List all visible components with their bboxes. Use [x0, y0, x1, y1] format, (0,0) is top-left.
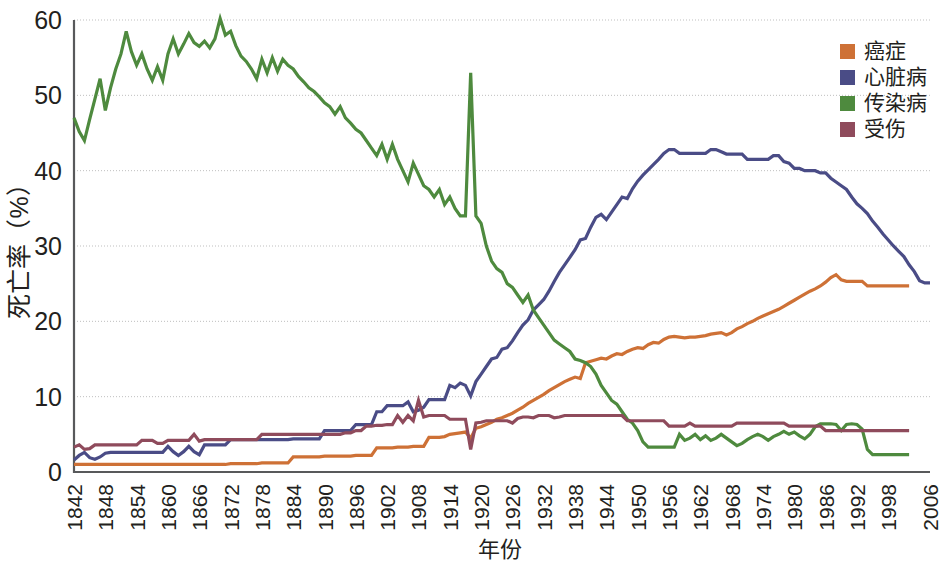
x-tick-label: 1938: [564, 484, 587, 531]
x-tick-label: 1968: [721, 484, 744, 531]
y-tick-label: 0: [48, 458, 62, 486]
y-tick-label: 30: [34, 232, 62, 260]
x-tick-label: 1896: [345, 484, 368, 531]
chart-canvas: 0102030405060 18421848185418601866187218…: [0, 0, 948, 565]
x-tick-label: 1944: [595, 484, 618, 531]
x-tick-label: 1962: [689, 484, 712, 531]
x-tick-label: 1920: [470, 484, 493, 531]
x-tick-label: 1866: [188, 484, 211, 531]
x-tick-label: 1914: [439, 484, 462, 531]
x-tick-label: 1974: [752, 484, 775, 531]
x-tick-label: 1992: [846, 484, 869, 531]
legend-swatch-3[interactable]: [840, 122, 855, 137]
legend-swatch-1[interactable]: [840, 70, 855, 85]
x-tick-label: 1884: [282, 484, 305, 531]
x-tick-label: 1878: [251, 484, 274, 531]
y-tick-label: 50: [34, 81, 62, 109]
legend-label-1[interactable]: 心脏病: [864, 65, 927, 88]
x-tick-label: 1890: [314, 484, 337, 531]
x-tick-label: 1956: [658, 484, 681, 531]
y-tick-label: 40: [34, 157, 62, 185]
x-tick-label: 1932: [533, 484, 556, 531]
x-tick-label: 1926: [501, 484, 524, 531]
y-tick-label: 10: [34, 383, 62, 411]
x-tick-label: 1872: [220, 484, 243, 531]
legend-swatch-0[interactable]: [840, 44, 855, 59]
x-tick-label: 1842: [63, 484, 86, 531]
mortality-line-chart: 0102030405060 18421848185418601866187218…: [0, 0, 948, 565]
x-tick-label: 1950: [627, 484, 650, 531]
x-tick-label: 1848: [94, 484, 117, 531]
chart-background: [0, 0, 948, 565]
legend-label-3[interactable]: 受伤: [864, 117, 906, 140]
legend-label-2[interactable]: 传染病: [864, 91, 927, 114]
y-tick-label: 60: [34, 6, 62, 34]
legend-swatch-2[interactable]: [840, 96, 855, 111]
x-axis-title: 年份: [478, 537, 522, 562]
x-tick-label: 1980: [783, 484, 806, 531]
y-axis-title: 死亡率（%）: [5, 171, 33, 318]
x-tick-label: 1998: [877, 484, 900, 531]
x-tick-label: 1860: [157, 484, 180, 531]
x-tick-label: 1908: [407, 484, 430, 531]
x-tick-label: 1854: [126, 484, 149, 531]
y-tick-label: 20: [34, 307, 62, 335]
legend-label-0[interactable]: 癌症: [864, 39, 906, 62]
x-tick-label: 1902: [376, 484, 399, 531]
x-tick-label: 2006: [919, 484, 942, 531]
x-tick-label: 1986: [815, 484, 838, 531]
